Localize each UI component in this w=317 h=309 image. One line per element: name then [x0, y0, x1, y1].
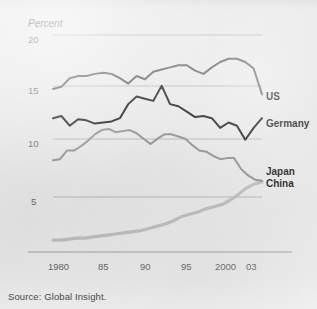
xtick-label-1980: 1980 — [48, 261, 69, 272]
series-line-china — [53, 182, 262, 240]
source-note: Source: Global Insight. — [8, 291, 106, 302]
legend-label-germany: Germany — [266, 118, 310, 129]
legend: US Germany Japan China — [266, 91, 310, 189]
ytick-label-20: 20 — [28, 34, 39, 45]
x-axis-tick-labels: 1980 85 90 95 2000 03 — [48, 261, 257, 272]
legend-label-us: US — [266, 91, 280, 102]
legend-label-japan: Japan — [266, 166, 295, 177]
series-line-germany — [53, 86, 262, 140]
figure-container: 20 15 10 5 Percent 1980 85 90 95 2000 03… — [0, 0, 317, 309]
xtick-label-03: 03 — [246, 261, 257, 272]
xtick-label-85: 85 — [98, 261, 109, 272]
ytick-label-10: 10 — [28, 138, 39, 149]
xtick-label-2000: 2000 — [215, 261, 236, 272]
y-axis-tick-labels: 20 15 10 5 — [28, 34, 39, 207]
series-line-us — [53, 59, 262, 95]
xtick-label-90: 90 — [140, 261, 151, 272]
ytick-label-5: 5 — [31, 196, 36, 207]
series-line-japan — [53, 129, 262, 181]
ytick-label-15: 15 — [28, 85, 39, 96]
xtick-label-95: 95 — [181, 261, 192, 272]
line-chart: 20 15 10 5 Percent 1980 85 90 95 2000 03… — [0, 0, 317, 309]
y-axis-unit-label: Percent — [28, 18, 64, 29]
legend-label-china: China — [266, 178, 294, 189]
